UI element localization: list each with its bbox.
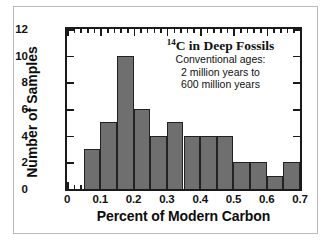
x-tick-label: 0.7 <box>292 193 307 205</box>
histogram-bar <box>84 149 101 189</box>
y-tick-label: 12 <box>0 23 28 35</box>
x-major-tick <box>300 182 302 189</box>
histogram-bar <box>200 136 217 189</box>
histogram-bar <box>267 176 284 189</box>
histogram-bar <box>134 109 151 189</box>
y-tick-label: 8 <box>0 76 28 88</box>
annotation-block: 14C in Deep Fossils Conventional ages: 2… <box>148 38 293 91</box>
annotation-line-3: 600 million years <box>148 78 293 91</box>
histogram-bar <box>250 162 267 189</box>
annotation-title-rest: C in Deep Fossils <box>176 38 275 53</box>
y-tick-label: 4 <box>0 130 28 142</box>
x-tick-label: 0.2 <box>126 193 141 205</box>
y-tick-label: 0 <box>0 183 28 195</box>
x-tick-label: 0 <box>64 193 70 205</box>
chart-figure: Number of Samples Percent of Modern Carb… <box>0 0 335 249</box>
histogram-bar <box>184 136 201 189</box>
y-tick-label: 10 <box>0 50 28 62</box>
histogram-bar <box>217 136 234 189</box>
x-tick-label: 0.5 <box>226 193 241 205</box>
histogram-bar <box>167 122 184 189</box>
x-axis-title: Percent of Modern Carbon <box>65 208 302 224</box>
x-tick-label: 0.3 <box>159 193 174 205</box>
histogram-bar <box>283 162 300 189</box>
x-major-tick <box>300 29 302 36</box>
annotation-title: 14C in Deep Fossils <box>148 38 293 53</box>
x-tick-label: 0.6 <box>259 193 274 205</box>
y-major-tick <box>293 189 300 191</box>
histogram-bar <box>233 162 250 189</box>
histogram-bar <box>100 122 117 189</box>
y-tick-label: 2 <box>0 156 28 168</box>
y-major-tick <box>67 189 74 191</box>
y-tick-label: 6 <box>0 103 28 115</box>
isotope-superscript: 14 <box>167 37 176 47</box>
histogram-bar <box>117 56 134 189</box>
histogram-bar <box>150 136 167 189</box>
annotation-line-2: 2 million years to <box>148 66 293 79</box>
x-tick-label: 0.1 <box>93 193 108 205</box>
annotation-line-1: Conventional ages: <box>148 53 293 66</box>
x-tick-label: 0.4 <box>192 193 207 205</box>
